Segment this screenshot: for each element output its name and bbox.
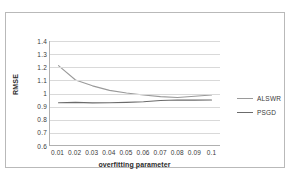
x-axis-tick-label: 0.1 xyxy=(199,149,223,157)
y-axis-tick-labels: 1.41.31.21.110.90.80.70.6 xyxy=(6,41,47,146)
gridline xyxy=(50,67,220,68)
y-axis-tick-label: 1 xyxy=(9,90,47,97)
y-axis-tick-label: 0.8 xyxy=(9,116,47,123)
gridline xyxy=(50,120,220,121)
plot-area xyxy=(49,41,220,146)
y-axis-tick-label: 0.9 xyxy=(9,103,47,110)
chart-border: RMSE 1.41.31.21.110.90.80.70.6 0.010.020… xyxy=(5,12,285,168)
gridline xyxy=(50,41,220,42)
gridline xyxy=(50,107,220,108)
x-axis-tick-labels: 0.010.020.030.040.050.060.070.080.090.1 xyxy=(49,149,220,159)
legend-label: PSGD xyxy=(257,109,276,116)
x-axis-title: overfitting parameter xyxy=(49,161,220,168)
y-axis-tick-label: 1.1 xyxy=(9,77,47,84)
chart-legend: ALSWRPSGD xyxy=(237,91,291,119)
chart-figure: RMSE 1.41.31.21.110.90.80.70.6 0.010.020… xyxy=(0,0,292,178)
legend-entry-psgd[interactable]: PSGD xyxy=(237,105,291,119)
legend-label: ALSWR xyxy=(257,95,281,102)
y-axis-tick-label: 0.6 xyxy=(9,143,47,150)
gridline xyxy=(50,80,220,81)
y-axis-tick-label: 1.2 xyxy=(9,64,47,71)
legend-entry-alswr[interactable]: ALSWR xyxy=(237,91,291,105)
gridline xyxy=(50,133,220,134)
legend-swatch-psgd xyxy=(237,112,253,113)
y-axis-tick-label: 1.4 xyxy=(9,38,47,45)
y-axis-tick-label: 0.7 xyxy=(9,129,47,136)
series-line-psgd xyxy=(59,100,212,103)
gridline xyxy=(50,94,220,95)
legend-swatch-alswr xyxy=(237,98,253,99)
gridline xyxy=(50,54,220,55)
y-axis-tick-label: 1.3 xyxy=(9,51,47,58)
